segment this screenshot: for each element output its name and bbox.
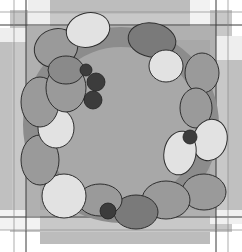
wreath-illustration bbox=[0, 0, 242, 252]
wreath-artwork bbox=[0, 0, 242, 252]
